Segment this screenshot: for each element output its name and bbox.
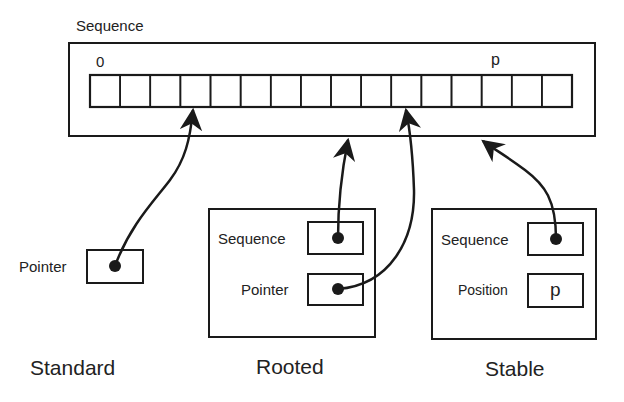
sequence-title: Sequence (76, 17, 144, 34)
sequence-cell (331, 75, 361, 107)
sequence-cell (90, 75, 120, 107)
sequence-cell (512, 75, 542, 107)
stable-position-value: p (550, 279, 561, 301)
sequence-cell (120, 75, 150, 107)
sequence-array (90, 75, 572, 107)
sequence-cell (482, 75, 512, 107)
sequence-start-index: 0 (96, 53, 104, 70)
rooted-pointer-label: Pointer (241, 281, 289, 298)
rooted-sequence-label: Sequence (218, 230, 286, 247)
sequence-cell (391, 75, 421, 107)
sequence-position-marker: p (491, 51, 500, 69)
sequence-cell (150, 75, 180, 107)
sequence-container (69, 43, 595, 136)
stable-sequence-arrow (483, 141, 556, 239)
sequence-cell (421, 75, 451, 107)
sequence-cell (301, 75, 331, 107)
standard-caption: Standard (30, 356, 115, 380)
sequence-cell (241, 75, 271, 107)
sequence-cell (542, 75, 572, 107)
sequence-cell (452, 75, 482, 107)
sequence-cell (271, 75, 301, 107)
standard-pointer-arrow (115, 110, 193, 266)
sequence-cell (361, 75, 391, 107)
stable-sequence-label: Sequence (441, 231, 509, 248)
stable-position-label: Position (458, 282, 508, 298)
rooted-caption: Rooted (256, 355, 324, 379)
sequence-cell (180, 75, 210, 107)
sequence-cell (211, 75, 241, 107)
stable-caption: Stable (485, 357, 545, 381)
diagram-canvas (0, 0, 624, 402)
standard-pointer-label: Pointer (19, 258, 67, 275)
rooted-sequence-arrow (338, 140, 348, 238)
